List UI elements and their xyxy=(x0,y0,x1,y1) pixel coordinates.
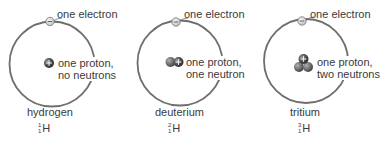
isotope-name: tritium xyxy=(290,106,320,118)
proton-icon xyxy=(299,54,309,64)
nucleus-label: one proton, no neutrons xyxy=(57,57,117,81)
element-symbol: H xyxy=(42,122,50,134)
nucleus-label: one proton, one neutron xyxy=(185,56,246,80)
nucleus-label-line2: two neutrons xyxy=(317,68,380,80)
isotope-name: hydrogen xyxy=(27,106,73,118)
atom-hydrogen: one electron one proton, no neutrons hyd… xyxy=(0,0,128,149)
atom-tritium: one electron one proton, two neutrons tr… xyxy=(256,0,384,149)
nucleus-label-line1: one proton, xyxy=(317,56,380,68)
electron-label: one electron xyxy=(184,8,245,20)
electron-label: one electron xyxy=(310,8,371,20)
electron-label: one electron xyxy=(57,8,118,20)
nucleus-label-line2: no neutrons xyxy=(58,69,116,81)
element-symbol: H xyxy=(172,122,180,134)
nucleus-label-line1: one proton, xyxy=(186,56,245,68)
atom-deuterium: one electron one proton, one neutron deu… xyxy=(128,0,256,149)
nucleus-label-line2: one neutron xyxy=(186,68,245,80)
isotope-symbol: 11H xyxy=(38,121,50,134)
isotope-symbol: 21H xyxy=(168,121,180,134)
isotope-name: deuterium xyxy=(155,106,204,118)
nucleus-label: one proton, two neutrons xyxy=(316,56,381,80)
atomic-number: 1 xyxy=(38,128,41,134)
atomic-number: 1 xyxy=(168,128,171,134)
atomic-number: 1 xyxy=(298,128,301,134)
proton-icon xyxy=(44,58,54,68)
isotope-symbol: 31H xyxy=(298,121,310,134)
element-symbol: H xyxy=(302,122,310,134)
nucleus-label-line1: one proton, xyxy=(58,57,116,69)
proton-icon xyxy=(174,57,184,67)
